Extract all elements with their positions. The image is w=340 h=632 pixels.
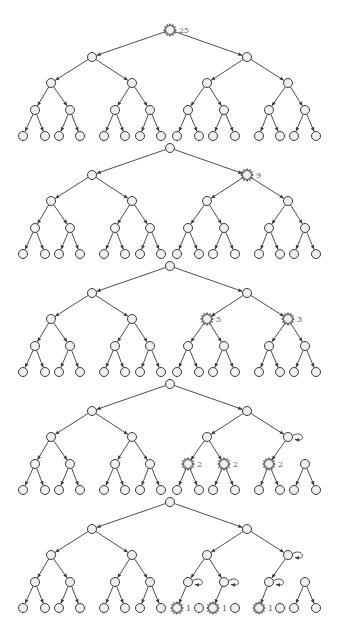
tree-node <box>231 368 240 377</box>
tree-edge <box>251 413 284 434</box>
tree-node <box>195 604 204 613</box>
tree-edge <box>152 114 159 131</box>
tree-edge <box>209 441 221 460</box>
tree-edge <box>96 413 128 434</box>
tree-edge <box>96 295 128 316</box>
tree-node <box>173 250 182 259</box>
tree-edge <box>179 468 186 485</box>
tree-edge <box>215 114 222 131</box>
tree-node <box>76 604 85 613</box>
tree-node <box>312 486 321 495</box>
tree-edge <box>190 232 197 249</box>
tree-edge <box>96 531 128 552</box>
tree-edge <box>191 205 204 224</box>
tree-edge <box>38 87 49 106</box>
node-count-label: 2 <box>278 460 283 469</box>
tree-edge <box>307 114 314 131</box>
tree-node <box>173 486 182 495</box>
tree-node <box>146 460 155 469</box>
tree-node <box>19 486 28 495</box>
tree-edge <box>307 468 314 485</box>
tree-node <box>184 106 193 115</box>
tree-node <box>276 604 285 613</box>
tree-edge <box>152 586 159 603</box>
tree-node <box>100 604 109 613</box>
node-count-label: 2 <box>233 460 238 469</box>
tree-edge <box>152 468 159 485</box>
tree-node <box>220 342 229 351</box>
tree-edge <box>97 267 166 291</box>
tree-edge <box>174 149 242 173</box>
tree-node <box>184 224 193 233</box>
tree-node <box>136 132 145 141</box>
tree-edge <box>142 586 149 603</box>
tree-edge <box>261 468 268 485</box>
edges <box>25 385 314 485</box>
tree-edge <box>61 350 68 367</box>
tree-node <box>121 604 130 613</box>
tree-node <box>41 368 50 377</box>
tree-node <box>47 551 56 560</box>
tree-edge <box>97 385 166 409</box>
tree-node <box>136 604 145 613</box>
tree-edge <box>96 177 128 198</box>
tree-node <box>301 106 310 115</box>
tree-edge <box>179 114 186 131</box>
tree-edge <box>106 468 113 485</box>
tree-node <box>76 132 85 141</box>
tree-edge <box>37 232 44 249</box>
tree-node <box>265 224 274 233</box>
tree-edge <box>174 503 242 527</box>
tree-edge <box>72 468 79 485</box>
tree-edge <box>135 323 148 342</box>
tree-edge <box>106 350 113 367</box>
tree-node <box>55 132 64 141</box>
tree-edge <box>72 114 79 131</box>
tree-node <box>301 578 310 587</box>
tree-node <box>166 144 175 153</box>
tree-edge <box>272 323 285 342</box>
tree-edge <box>209 205 221 224</box>
tree-node <box>111 578 120 587</box>
tree-node <box>290 250 299 259</box>
tree-node <box>19 368 28 377</box>
tree-edge <box>215 350 222 367</box>
tree-node <box>312 368 321 377</box>
tree-node <box>243 525 252 534</box>
tree-node <box>312 250 321 259</box>
tree-node <box>100 368 109 377</box>
tree-node <box>47 79 56 88</box>
tree-node <box>146 106 155 115</box>
tree-edge <box>55 177 88 198</box>
tree-node <box>243 407 252 416</box>
tree-edge <box>296 586 303 603</box>
tree-4: 222 <box>19 380 321 495</box>
tree-edge <box>106 114 113 131</box>
tree-node <box>231 486 240 495</box>
tree-node <box>55 486 64 495</box>
tree-edge <box>211 177 243 198</box>
tree-edge <box>209 323 221 342</box>
tree-edge <box>226 114 233 131</box>
tree-node <box>146 578 155 587</box>
tree-edge <box>226 350 233 367</box>
tree-edge <box>251 531 284 552</box>
starburst-node-icon <box>171 602 184 615</box>
tree-edge <box>215 468 222 485</box>
tree-edge <box>37 350 44 367</box>
tree-edge <box>307 586 314 603</box>
edges <box>25 267 314 367</box>
tree-node <box>136 486 145 495</box>
tree-edge <box>54 205 67 224</box>
tree-node <box>111 106 120 115</box>
tree-1: 25 <box>19 24 321 141</box>
tree-edge <box>55 295 88 316</box>
tree-edge <box>209 559 221 578</box>
self-loop-arrow-icon <box>229 579 239 585</box>
tree-node <box>312 604 321 613</box>
tree-node <box>157 486 166 495</box>
tree-node <box>265 578 274 587</box>
tree-edge <box>97 503 166 527</box>
tree-edge <box>174 267 242 291</box>
tree-edge <box>118 559 130 578</box>
